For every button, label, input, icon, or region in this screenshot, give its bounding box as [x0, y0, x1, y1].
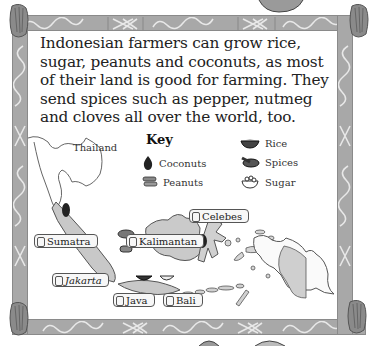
frame-border-left: [12, 15, 28, 335]
label-thailand: Thailand: [73, 142, 117, 153]
scroll-pattern-icon: [13, 321, 365, 335]
tassel-top-left-icon: [6, 2, 32, 42]
label-jakarta: Jakarta: [52, 273, 109, 287]
label-kalimantan: Kalimantan: [126, 234, 204, 248]
frame-border-right: [337, 15, 353, 335]
key-item-sugar: Sugar: [240, 175, 295, 189]
decorative-bowls-icon: [195, 336, 295, 346]
frame-border-top: [12, 15, 366, 31]
coconut-marker: [62, 203, 70, 217]
map-sugar-icon: [160, 276, 174, 280]
scroll-pattern-icon: [338, 16, 352, 334]
intro-paragraph: Indonesian farmers can grow rice, sugar,…: [40, 34, 335, 127]
label-java: Java: [113, 293, 155, 307]
label-sumatra: Sumatra: [34, 234, 98, 248]
key-label: Rice: [265, 138, 287, 149]
tassel-bottom-right-icon: [344, 298, 370, 338]
label-bali: Bali: [163, 293, 203, 307]
key-item-spices: Spices: [240, 156, 298, 168]
map-rice-icon: [136, 276, 152, 280]
scroll-pattern-icon: [13, 17, 365, 31]
key-item-coconuts: Coconuts: [142, 155, 206, 171]
decorative-basket-icon: [255, 0, 305, 14]
spices-mortar-icon: [240, 156, 260, 168]
key-item-peanuts: Peanuts: [142, 176, 203, 188]
coconut-icon: [142, 155, 154, 171]
sugar-bowl-icon: [240, 175, 260, 189]
key-label: Peanuts: [163, 177, 203, 188]
rice-bowl-icon: [240, 139, 260, 149]
label-celebes: Celebes: [189, 209, 249, 223]
key-item-rice: Rice: [240, 138, 287, 149]
key-title: Key: [146, 132, 173, 147]
tassel-top-right-icon: [346, 2, 372, 42]
peanuts-icon: [142, 176, 158, 188]
key-label: Spices: [265, 157, 298, 168]
frame-border-bottom: [12, 319, 366, 335]
scroll-pattern-icon: [13, 16, 27, 334]
key-label: Coconuts: [159, 158, 206, 169]
key-label: Sugar: [265, 177, 295, 188]
